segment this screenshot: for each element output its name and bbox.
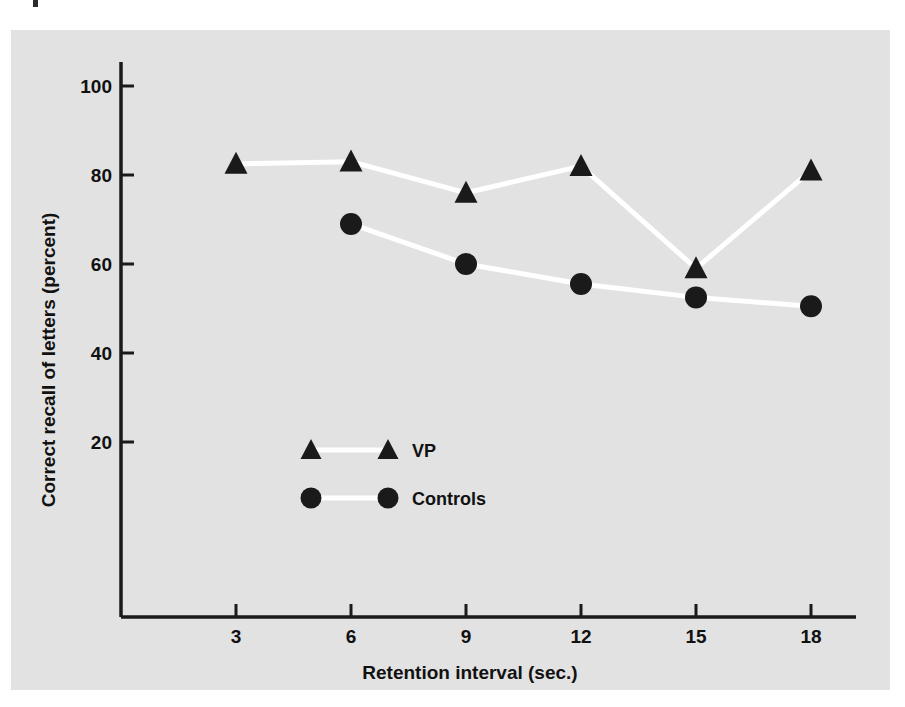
legend-label-vp: VP: [412, 441, 436, 461]
x-tick-label-3: 3: [231, 626, 242, 647]
x-tick-label-12: 12: [570, 626, 591, 647]
x-tick-marks: [236, 604, 811, 617]
series-lines: [236, 162, 811, 307]
series-line-vp: [236, 162, 811, 269]
axes-group: [121, 62, 856, 617]
y-tick-marks: [121, 86, 134, 442]
line-chart: 100 80 60 40 20 3 6 9 12 15 18 Retention…: [0, 0, 905, 707]
legend: VP Controls: [301, 439, 487, 509]
legend-label-controls: Controls: [412, 489, 486, 509]
x-tick-labels: 3 6 9 12 15 18: [231, 626, 822, 647]
x-tick-label-9: 9: [461, 626, 472, 647]
data-marker-circle: [685, 286, 707, 308]
legend-entry-vp[interactable]: VP: [301, 439, 437, 461]
legend-marker-circle-right: [378, 488, 399, 509]
y-tick-label-20: 20: [91, 432, 112, 453]
y-tick-label-60: 60: [91, 254, 112, 275]
y-tick-labels: 100 80 60 40 20: [80, 76, 112, 453]
data-marker-circle: [455, 253, 477, 275]
x-axis-title: Retention interval (sec.): [362, 662, 577, 683]
legend-entry-controls[interactable]: Controls: [301, 488, 487, 510]
series-markers-vp: [225, 150, 823, 279]
x-tick-label-6: 6: [346, 626, 357, 647]
y-tick-label-40: 40: [91, 343, 112, 364]
y-tick-label-80: 80: [91, 165, 112, 186]
data-marker-circle: [800, 295, 822, 317]
legend-marker-circle-left: [301, 488, 322, 509]
figure-container: 100 80 60 40 20 3 6 9 12 15 18 Retention…: [0, 0, 905, 707]
x-tick-label-15: 15: [685, 626, 707, 647]
data-marker-triangle: [800, 158, 823, 180]
data-marker-triangle: [570, 154, 593, 176]
y-axis-title: Correct recall of letters (percent): [38, 213, 59, 508]
data-marker-circle: [570, 273, 592, 295]
data-marker-circle: [340, 213, 362, 235]
y-tick-label-100: 100: [80, 76, 112, 97]
x-tick-label-18: 18: [800, 626, 821, 647]
